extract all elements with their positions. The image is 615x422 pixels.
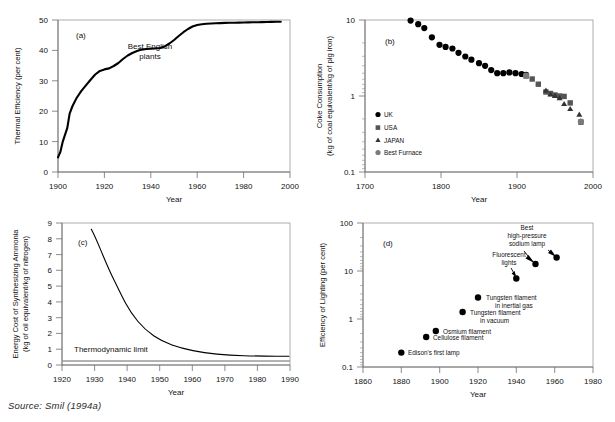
series-points-d <box>398 254 560 355</box>
label-tungsten-inertial-line2: in inertial gas <box>495 302 533 310</box>
y-ticks-b: 10 1 0.1 <box>344 16 365 177</box>
y-axis-label-d: Efficiency of Lighting (per cent) <box>318 242 327 347</box>
x-tick-label: 1920 <box>469 377 487 386</box>
series-usa-points <box>523 73 583 125</box>
x-tick-label: 2000 <box>281 182 299 191</box>
y-tick-label: 0.1 <box>344 168 356 177</box>
legend-label-japan: JAPAN <box>384 137 405 144</box>
y-tick-label: 0 <box>44 168 49 177</box>
y-tick-label: 8 <box>48 235 53 244</box>
y-tick-label: 2 <box>48 329 53 338</box>
y-tick-label: 100 <box>340 219 354 228</box>
y-tick-label: 10 <box>344 267 353 276</box>
x-tick-label: 1800 <box>432 182 450 191</box>
leader-arrow-mercury <box>526 255 535 263</box>
point-edison-first-lamp <box>398 349 404 355</box>
panel-d: 100 10 1 0.1 <box>305 205 615 400</box>
x-tick-label: 1960 <box>546 377 564 386</box>
panel-c-plot: 0 1 2 3 4 5 6 7 8 9 1920 <box>0 205 308 400</box>
x-tick-label: 1920 <box>53 375 71 384</box>
x-tick-label: 1900 <box>431 377 449 386</box>
y-axis-label-b-line1: Coke Consumption <box>315 64 324 129</box>
x-axis-label-a: Year <box>166 195 183 204</box>
y-tick-label: 9 <box>48 219 53 228</box>
label-tungsten-vacuum-line1: Tungsten filament <box>470 309 521 317</box>
panel-label-c: (c) <box>78 238 88 247</box>
legend-marker-best-furnace <box>375 150 380 155</box>
series-line-c <box>91 229 289 356</box>
y-ticks-d: 100 10 1 0.1 <box>340 219 363 372</box>
x-tick-label: 1940 <box>118 375 136 384</box>
label-sodium-line3: sodium lamp <box>509 240 546 248</box>
x-tick-label: 1700 <box>356 182 374 191</box>
y-tick-label: 0.1 <box>342 363 354 372</box>
y-ticks-c: 0 1 2 3 4 5 6 7 8 9 <box>48 219 62 370</box>
y-tick-label: 1 <box>48 345 53 354</box>
label-tungsten-inertial-line1: Tungsten filament <box>486 294 537 302</box>
y-tick-label: 6 <box>48 266 53 275</box>
plot-frame-c <box>62 223 290 365</box>
x-tick-label: 1930 <box>86 375 104 384</box>
y-tick-label: 4 <box>48 298 53 307</box>
x-tick-label: 1970 <box>216 375 234 384</box>
y-tick-label: 5 <box>48 282 53 291</box>
source-citation: Smil (1994a) <box>45 400 101 411</box>
x-ticks-d: 1860 1880 1900 1920 1940 1960 1980 <box>354 367 602 386</box>
panel-a: 0 10 20 30 40 50 1900 1920 1940 1960 198… <box>0 2 308 207</box>
y-axis-label-c-line1: Energy Cost of Synthesizing Ammonia <box>11 229 20 359</box>
panel-c: 0 1 2 3 4 5 6 7 8 9 1920 <box>0 205 308 400</box>
y-ticks-a: 0 10 20 30 40 50 <box>39 16 58 177</box>
x-tick-label: 1940 <box>142 182 160 191</box>
legend-label-usa: USA <box>384 124 398 131</box>
y-tick-label: 7 <box>48 251 53 260</box>
point-tungsten-inertial-gas <box>475 294 481 300</box>
legend-b: UK USA JAPAN Best Furnace <box>375 111 422 156</box>
x-axis-label-b: Year <box>471 195 488 204</box>
y-axis-label-a: Thermal Efficiency (per cent) <box>13 47 22 144</box>
x-tick-label: 1980 <box>235 182 253 191</box>
panel-label-d: (d) <box>383 239 393 248</box>
label-tungsten-vacuum-line2: in vacuum <box>480 317 509 324</box>
panel-b-plot: 10 1 0.1 <box>305 2 615 207</box>
label-cellulose-filament: Cellulose filament <box>433 334 484 341</box>
panel-b: 10 1 0.1 <box>305 2 615 207</box>
x-tick-label: 1920 <box>96 182 114 191</box>
x-ticks-c: 1920 1930 1940 1950 1960 1970 1980 1990 <box>53 365 299 384</box>
y-tick-label: 3 <box>48 314 53 323</box>
x-tick-label: 1950 <box>151 375 169 384</box>
label-fluorescent-line2: lights <box>502 259 517 267</box>
y-tick-label: 10 <box>39 138 48 147</box>
y-tick-label: 30 <box>39 77 48 86</box>
y-tick-label: 1 <box>349 315 354 324</box>
label-edison-first-lamp: Edison's first lamp <box>408 349 460 357</box>
point-tungsten-vacuum <box>459 309 465 315</box>
legend-label-best-furnace: Best Furnace <box>384 149 422 156</box>
legend-marker-uk <box>375 112 380 117</box>
x-ticks-a: 1900 1920 1940 1960 1980 2000 <box>49 172 299 191</box>
x-axis-label-d: Year <box>470 390 487 399</box>
y-axis-label-b-line2: (kg of coal equivalent/kg of pig iron) <box>325 36 334 156</box>
figure-container: 0 10 20 30 40 50 1900 1920 1940 1960 198… <box>0 0 615 422</box>
y-tick-label: 40 <box>39 46 48 55</box>
x-tick-label: 1900 <box>508 182 526 191</box>
x-tick-label: 2000 <box>584 182 602 191</box>
y-tick-label: 20 <box>39 107 48 116</box>
x-tick-label: 1900 <box>49 182 67 191</box>
annotation-best-english-plants-line2: plants <box>139 52 160 61</box>
x-tick-label: 1880 <box>392 377 410 386</box>
panel-a-plot: 0 10 20 30 40 50 1900 1920 1940 1960 198… <box>0 2 308 207</box>
y-tick-label: 0 <box>48 361 53 370</box>
point-cellulose-filament <box>423 334 429 340</box>
legend-marker-usa <box>376 125 381 130</box>
x-tick-label: 1980 <box>584 377 602 386</box>
panel-d-plot: 100 10 1 0.1 <box>305 205 615 400</box>
x-tick-label: 1960 <box>183 375 201 384</box>
y-tick-label: 50 <box>39 16 48 25</box>
panel-label-a: (a) <box>76 31 86 40</box>
x-ticks-b: 1700 1800 1900 2000 <box>356 172 602 191</box>
y-tick-label: 10 <box>346 16 355 25</box>
x-tick-label: 1990 <box>281 375 299 384</box>
panel-label-b: (b) <box>385 37 395 46</box>
label-fluorescent-line1: Fluorescent <box>492 251 526 258</box>
y-axis-label-c-line2: (kg of oil equivalent/kg of nitrogen) <box>21 235 30 352</box>
